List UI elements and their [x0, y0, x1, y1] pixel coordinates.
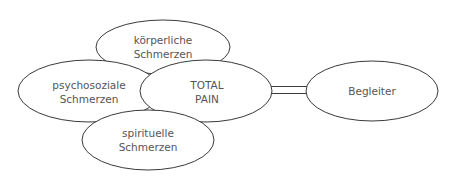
node-label-line2: Schmerzen: [119, 141, 178, 153]
total-pain-diagram: körperliche Schmerzen psychosoziale Schm…: [0, 0, 456, 179]
node-label-line1: körperliche: [134, 34, 193, 46]
node-label-line2: Schmerzen: [134, 48, 193, 60]
node-label-line1: TOTAL: [189, 79, 223, 91]
node-begleiter: Begleiter: [306, 61, 438, 121]
node-label-line1: spirituelle: [122, 127, 174, 139]
node-label-line2: Schmerzen: [60, 93, 119, 105]
node-spirituelle-schmerzen: spirituelle Schmerzen: [82, 110, 214, 170]
connector-total-begleiter: [270, 87, 308, 94]
node-label: Begleiter: [348, 85, 396, 97]
node-label-line2: PAIN: [195, 93, 219, 105]
node-label-line1: psychosoziale: [52, 79, 125, 91]
